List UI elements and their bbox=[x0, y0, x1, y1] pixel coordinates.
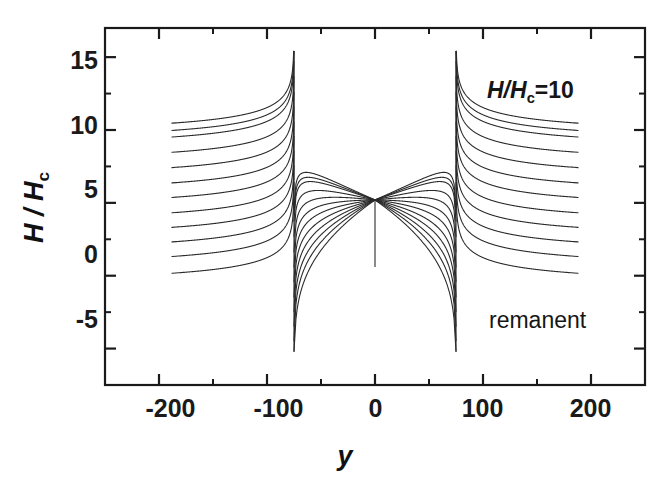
x-tick-label-minus100: -100 bbox=[236, 396, 321, 421]
field-line-outer bbox=[172, 106, 294, 197]
field-line-inner bbox=[375, 200, 456, 282]
y-axis-title: H / Hc bbox=[21, 128, 48, 288]
y-tick-label-0: 0 bbox=[50, 242, 98, 267]
field-line-inner bbox=[294, 200, 375, 326]
field-line-inner bbox=[375, 200, 456, 326]
field-line-inner bbox=[375, 200, 456, 312]
annotation-field-value: =10 bbox=[535, 77, 574, 103]
field-line-outer bbox=[456, 106, 578, 197]
y-tick-label-5: 5 bbox=[50, 177, 98, 202]
x-tick-label-0: 0 bbox=[333, 396, 418, 421]
field-line-inner bbox=[375, 200, 456, 297]
field-line-outer bbox=[172, 61, 294, 152]
y-axis-title-main: H / H bbox=[19, 182, 49, 244]
annotation-field-ratio: H/Hc=10 bbox=[487, 79, 574, 102]
figure-container: 15 10 5 0 -5 -200 -100 0 100 200 H / Hc … bbox=[0, 0, 667, 494]
field-line-inner bbox=[294, 200, 375, 341]
x-tick-label-200: 200 bbox=[548, 396, 633, 421]
y-tick-label-minus5: -5 bbox=[40, 307, 98, 332]
field-line-outer bbox=[456, 92, 578, 183]
annotation-field-subscript: c bbox=[527, 90, 535, 106]
field-line-outer bbox=[456, 61, 578, 152]
field-line-inner bbox=[294, 200, 375, 297]
field-line-outer bbox=[172, 51, 294, 123]
field-line-outer bbox=[172, 51, 294, 130]
x-axis-title: y bbox=[330, 443, 360, 470]
x-tick-label-minus200: -200 bbox=[128, 396, 213, 421]
field-line-inner bbox=[294, 200, 375, 282]
field-line-outer bbox=[172, 92, 294, 183]
y-axis-title-subscript: c bbox=[32, 172, 52, 182]
annotation-remanent-state: remanent bbox=[489, 309, 586, 332]
y-tick-label-15: 15 bbox=[50, 48, 98, 73]
annotation-field-main: H/H bbox=[487, 77, 527, 103]
field-line-inner bbox=[294, 200, 375, 312]
y-tick-label-10: 10 bbox=[50, 113, 98, 138]
x-tick-label-100: 100 bbox=[440, 396, 525, 421]
field-line-inner bbox=[375, 200, 456, 341]
